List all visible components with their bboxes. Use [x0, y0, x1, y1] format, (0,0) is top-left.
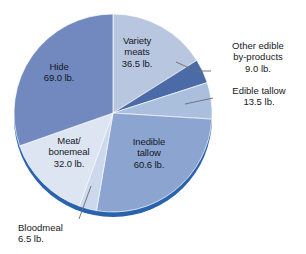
slice-label-other-edible-by-products: Other edible by-products 9.0 lb. [212, 40, 304, 74]
slice-label-edible-tallow: Edible tallow 13.5 lb. [214, 85, 304, 108]
slice-label-variety-meats: Variety meats 36.5 lb. [106, 35, 168, 69]
slice-label-bloodmeal: Bloodmeal 6.5 lb. [18, 222, 94, 245]
slice-label-inedible-tallow: Inedible tallow 60.6 lb. [118, 136, 180, 170]
slice-label-hide: Hide 69.0 lb. [30, 61, 88, 84]
slice-label-meat-bonemeal: Meat/ bonemeal 32.0 lb. [36, 135, 102, 169]
pie-chart: Variety meats 36.5 lb. Hide 69.0 lb. Mea… [0, 0, 306, 254]
